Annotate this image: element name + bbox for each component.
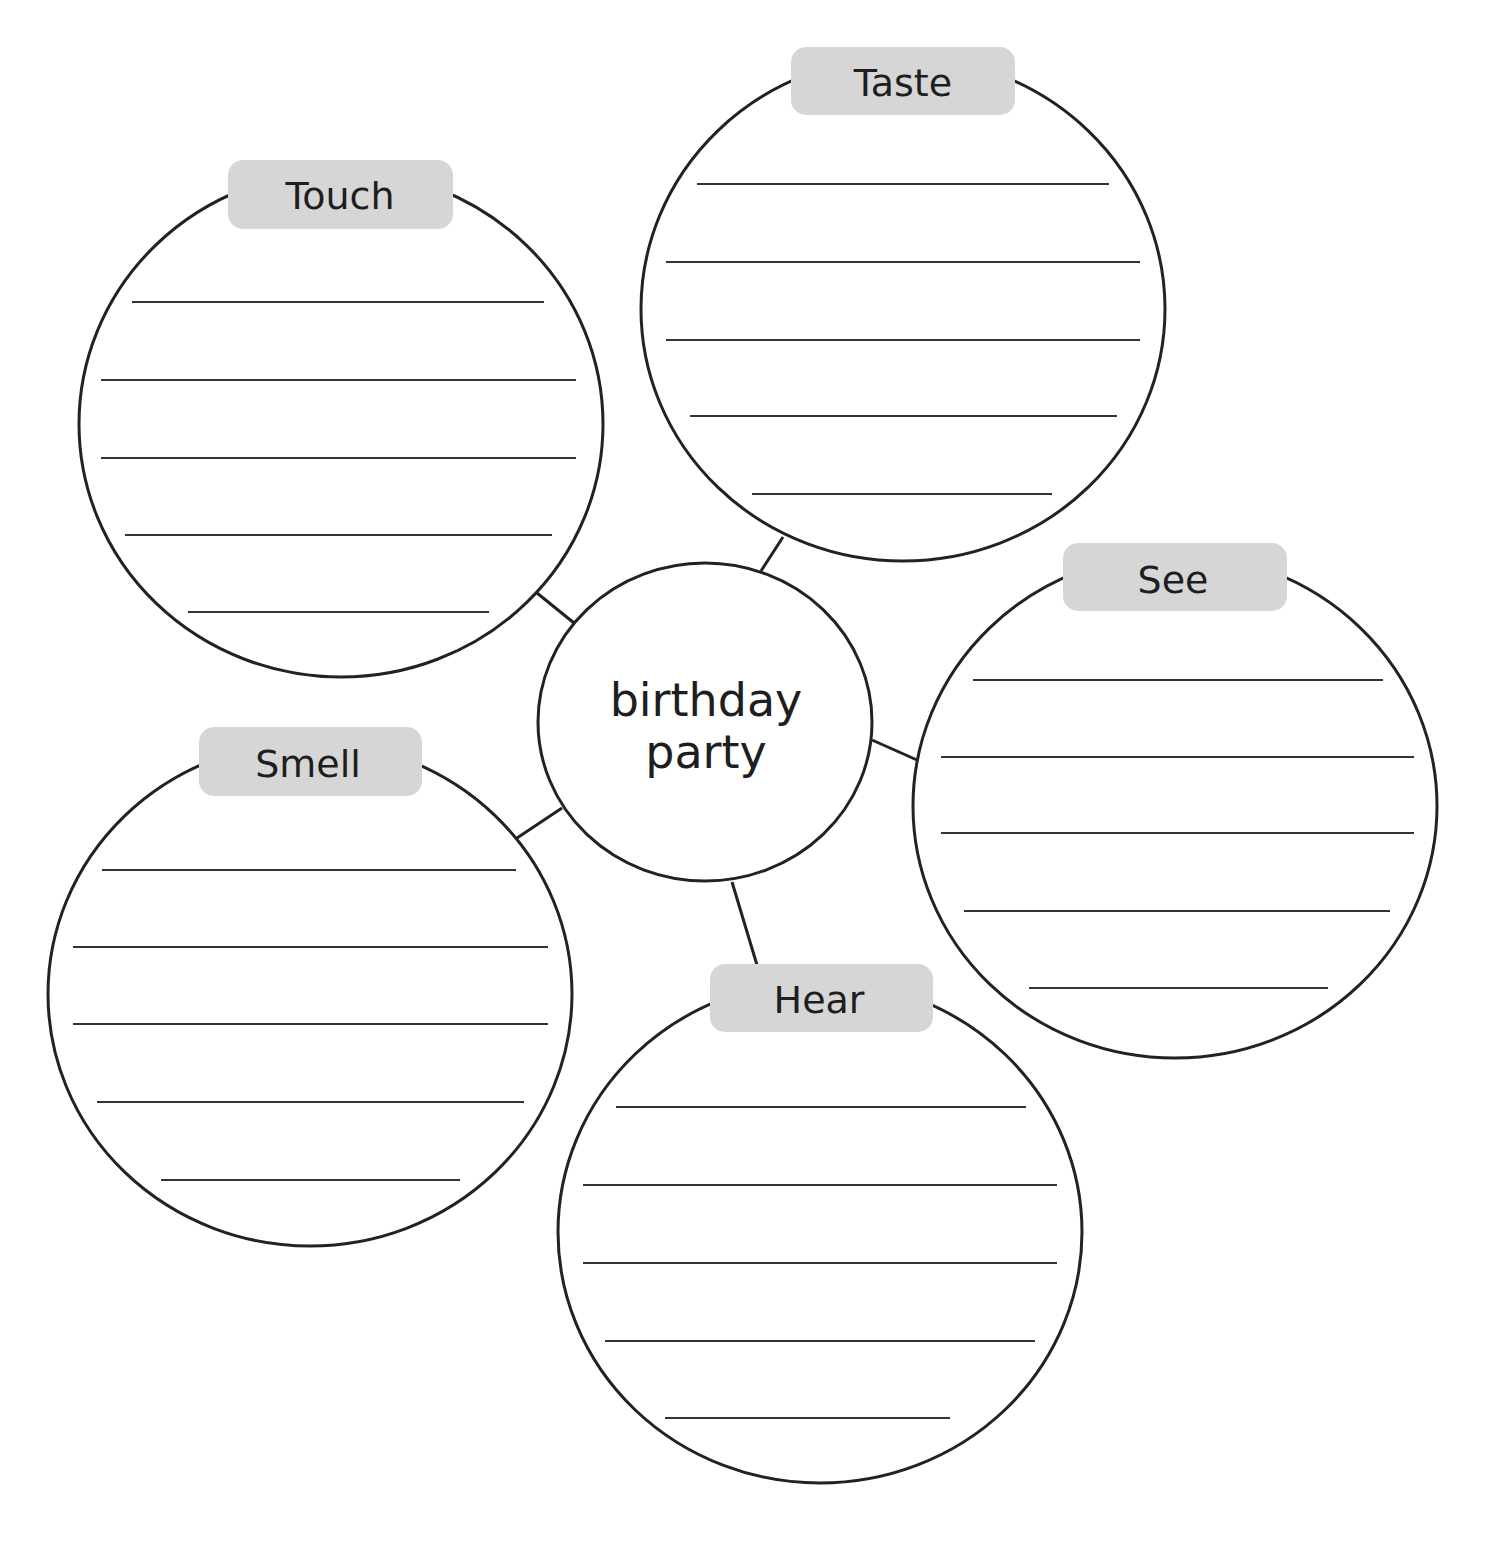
bubble-smell-label: Smell: [255, 742, 361, 786]
bubble-see-outline: [913, 554, 1437, 1058]
bubble-touch-label: Touch: [284, 174, 394, 218]
connector-taste: [761, 537, 783, 571]
center-topic-line-2: party: [645, 725, 767, 779]
bubble-taste-label: Taste: [853, 61, 952, 105]
center-topic: birthday party: [538, 563, 872, 881]
bubble-taste-outline: [641, 57, 1165, 561]
connector-see: [872, 740, 917, 760]
connector-hear: [732, 882, 757, 965]
bubble-hear-label: Hear: [774, 978, 865, 1022]
bubble-smell: Smell: [48, 727, 572, 1246]
bubble-touch: Touch: [79, 160, 603, 677]
sensory-word-web: Touch Taste See Smell: [0, 0, 1491, 1554]
center-topic-line-1: birthday: [610, 673, 803, 727]
bubble-hear-outline: [558, 981, 1082, 1483]
bubble-touch-outline: [79, 171, 603, 677]
bubble-see: See: [913, 543, 1437, 1058]
bubble-hear: Hear: [558, 964, 1082, 1483]
bubble-smell-outline: [48, 742, 572, 1246]
bubble-taste: Taste: [641, 47, 1165, 561]
connector-smell: [517, 808, 562, 838]
connector-touch: [537, 593, 574, 623]
bubble-see-label: See: [1138, 558, 1209, 602]
